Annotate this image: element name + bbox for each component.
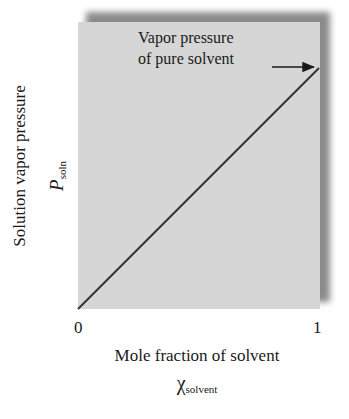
annotation-line1: Vapor pressure [138,27,234,48]
annotation-line2: of pure solvent [138,48,234,69]
y-axis-symbol: Psoln [46,161,68,191]
x-tick-1: 1 [313,318,322,338]
annotation-pure-solvent: Vapor pressure of pure solvent [138,27,234,69]
y-axis-label: Solution vapor pressure [10,85,30,246]
y-symbol-main: P [46,179,67,191]
x-axis-label: Mole fraction of solvent [115,346,280,366]
y-symbol-sub: soln [56,161,68,179]
x-symbol-main: χ [177,372,186,394]
x-symbol-sub: solvent [186,383,218,395]
data-line [78,68,319,309]
raoults-law-chart: Vapor pressure of pure solvent Solution … [0,0,349,419]
x-tick-0: 0 [74,318,83,338]
x-axis-symbol: χsolvent [177,372,218,395]
